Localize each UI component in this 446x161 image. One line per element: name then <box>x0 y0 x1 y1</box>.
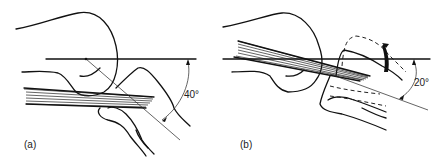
lower-leg-b <box>320 76 386 130</box>
tibia-original-b <box>342 36 406 72</box>
ligament-fibres-b <box>234 41 370 81</box>
angle-label-b: 20° <box>414 77 429 88</box>
femur-outline-a <box>16 12 118 95</box>
rotation-arrow-icon <box>382 44 389 72</box>
angle-label-a: 40° <box>184 89 199 100</box>
panel-b: 20° (b) <box>223 13 430 150</box>
knee-diagram: 40° (a) <box>0 0 446 161</box>
lower-leg-dashed-2-b <box>330 96 386 106</box>
panel-label-b: (b) <box>240 139 252 150</box>
panel-label-a: (a) <box>24 139 36 150</box>
fibula-b <box>362 108 386 118</box>
lower-leg-inner-b <box>328 97 386 112</box>
lower-leg-dashed-b <box>330 86 380 94</box>
notch-mark-b <box>286 70 304 76</box>
ligament-fibres-a <box>24 88 154 108</box>
panel-a: 40° (a) <box>16 12 199 156</box>
notch-mark-a <box>80 68 100 77</box>
